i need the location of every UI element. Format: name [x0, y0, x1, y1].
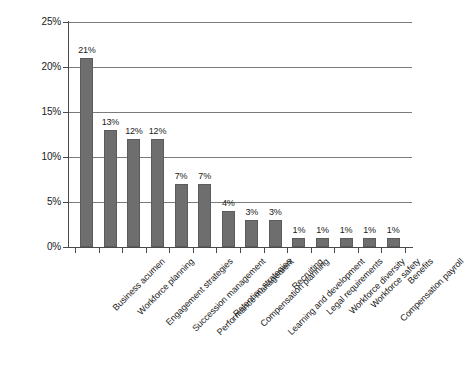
bar [316, 238, 329, 247]
y-axis-tick [63, 22, 68, 23]
x-axis-tick [99, 248, 100, 253]
gridline-25 [68, 22, 412, 23]
bar [151, 139, 164, 247]
bar-value-label: 12% [144, 127, 172, 136]
bar-value-label: 13% [96, 118, 124, 127]
bar [104, 130, 117, 247]
y-axis-tick [63, 157, 68, 158]
bar-value-label: 7% [191, 172, 219, 181]
x-axis-category-label: Recruiting [291, 257, 325, 291]
y-axis-line [68, 21, 69, 248]
bar-value-label: 3% [261, 208, 289, 217]
y-axis-tick-label: 15% [29, 107, 61, 117]
x-axis-tick [169, 248, 170, 253]
bar-value-label: 21% [73, 46, 101, 55]
x-axis-tick [311, 248, 312, 253]
bar [198, 184, 211, 247]
gridline-10 [68, 157, 412, 158]
bar [387, 238, 400, 247]
x-axis-category-label: Learning and development [286, 257, 366, 337]
y-axis-tick-label: 5% [29, 197, 61, 207]
y-axis-tick-label: 25% [29, 17, 61, 27]
bar [245, 220, 258, 247]
y-axis-labels: 0%5%10%15%20%25% [22, 0, 61, 368]
x-axis-tick [193, 248, 194, 253]
bar [292, 238, 305, 247]
x-axis-tick [334, 248, 335, 253]
x-axis-tick [381, 248, 382, 253]
bar [175, 184, 188, 247]
bar [222, 211, 235, 247]
bar [269, 220, 282, 247]
y-axis-tick [63, 112, 68, 113]
gridline-15 [68, 112, 412, 113]
y-axis-tick [63, 247, 68, 248]
x-axis-tick [75, 248, 76, 253]
bar-value-label: 1% [379, 226, 407, 235]
gridline-20 [68, 67, 412, 68]
x-axis-tick [287, 248, 288, 253]
y-axis-tick-label: 0% [29, 242, 61, 252]
bar [363, 238, 376, 247]
bar [127, 139, 140, 247]
bar [80, 58, 93, 247]
x-axis-tick [405, 248, 406, 253]
x-axis-tick [358, 248, 359, 253]
y-axis-tick-label: 10% [29, 152, 61, 162]
x-axis-tick [146, 248, 147, 253]
x-axis-tick [240, 248, 241, 253]
x-axis-tick [264, 248, 265, 253]
y-axis-tick [63, 202, 68, 203]
bar-value-label: 4% [214, 199, 242, 208]
x-axis-tick [122, 248, 123, 253]
bar [340, 238, 353, 247]
y-axis-tick-label: 20% [29, 62, 61, 72]
x-axis-tick [216, 248, 217, 253]
y-axis-tick [63, 67, 68, 68]
